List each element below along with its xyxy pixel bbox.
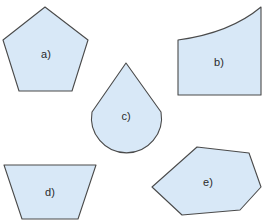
- shapes-diagram: a) b) c) d) e): [0, 0, 264, 221]
- shape-c-label: c): [121, 110, 130, 122]
- shape-b-label: b): [214, 56, 224, 68]
- shape-e-hexagon: e): [152, 147, 261, 215]
- shape-a-label: a): [41, 48, 51, 60]
- shape-d-trapezoid: d): [4, 165, 96, 219]
- shape-a-pentagon: a): [3, 7, 88, 91]
- shape-b-curved-quadrilateral: b): [178, 7, 261, 95]
- shape-c-teardrop: c): [92, 63, 162, 153]
- shape-d-label: d): [45, 186, 55, 198]
- curved-quadrilateral-shape: [178, 7, 261, 95]
- teardrop-shape: [92, 63, 162, 153]
- shape-e-label: e): [203, 176, 213, 188]
